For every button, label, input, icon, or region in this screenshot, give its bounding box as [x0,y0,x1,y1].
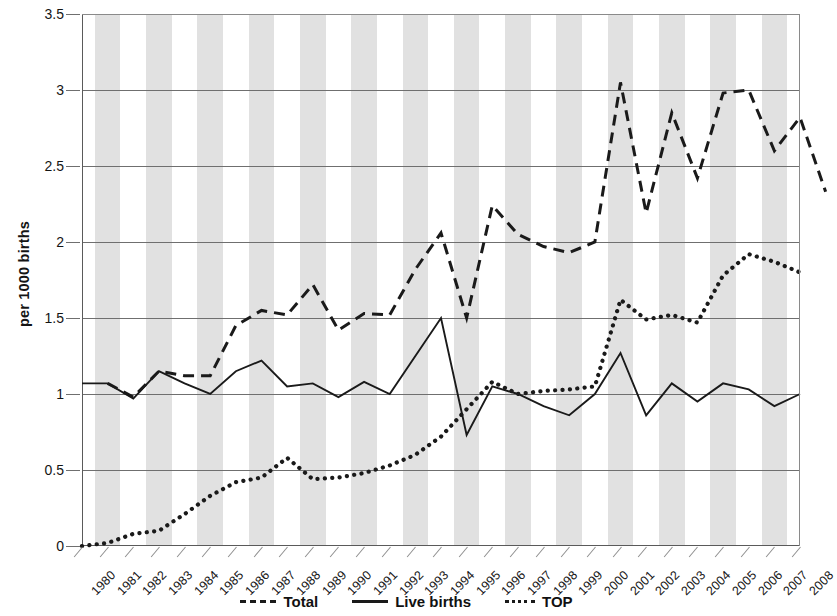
legend-label: Total [283,593,318,610]
x-tick-mark [356,547,365,558]
legend-item-total[interactable]: Total [240,593,318,610]
legend-item-top[interactable]: TOP [505,593,573,610]
x-tick-mark [715,547,724,558]
x-tick-mark [535,547,544,558]
legend-swatch-dotted-icon [505,600,535,603]
x-tick-mark [330,547,339,558]
x-tick-mark [664,547,673,558]
x-tick-mark [561,547,570,558]
x-tick-mark [381,547,390,558]
x-tick-mark [253,547,262,558]
x-tick-mark [587,547,596,558]
legend-label: Live births [395,593,471,610]
x-tick-mark [305,547,314,558]
x-tick-mark [74,547,83,558]
x-tick-mark [433,547,442,558]
x-tick-mark [151,547,160,558]
x-tick-mark [766,547,775,558]
x-tick-mark [458,547,467,558]
x-tick-mark [125,547,134,558]
x-tick-mark [638,547,647,558]
x-tick-mark [228,547,237,558]
x-tick-mark [202,547,211,558]
x-tick-mark [279,547,288,558]
x-tick-mark [792,547,801,558]
x-tick-mark [176,547,185,558]
x-tick-mark [484,547,493,558]
legend-item-live-births[interactable]: Live births [352,593,471,610]
x-tick-mark [407,547,416,558]
x-tick-mark [99,547,108,558]
x-tick-mark [510,547,519,558]
legend-swatch-dashed-icon [240,600,276,603]
legend-label: TOP [542,593,573,610]
x-tick-mark [689,547,698,558]
x-tick-mark [740,547,749,558]
x-tick-mark [612,547,621,558]
chart-legend: TotalLive birthsTOP [0,593,813,610]
legend-swatch-solid-icon [352,600,388,603]
